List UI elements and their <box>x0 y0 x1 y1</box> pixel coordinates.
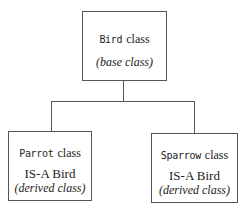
base-class-note: (base class) <box>83 55 166 70</box>
derived-class-box-parrot: Parrot class IS-A Bird (derived class) <box>8 131 92 201</box>
base-class-name: Bird <box>99 34 122 45</box>
base-class-box: Bird class (base class) <box>82 11 167 81</box>
derived-class-box-sparrow: Sparrow class IS-A Bird (derived class) <box>151 133 238 203</box>
derived-class-note: (derived class) <box>152 183 237 198</box>
connector-base-down <box>123 80 124 101</box>
derived-class-suffix: class <box>205 148 228 162</box>
derived-class-name: Parrot <box>19 148 53 159</box>
derived-class-title: Sparrow class <box>152 145 237 163</box>
derived-class-name: Sparrow <box>161 150 201 161</box>
connector-left-down <box>51 101 52 132</box>
base-class-suffix: class <box>126 32 149 46</box>
derived-class-relation: IS-A Bird <box>9 166 91 182</box>
derived-class-note: (derived class) <box>9 181 91 196</box>
base-class-title: Bird class <box>83 29 166 47</box>
derived-class-relation: IS-A Bird <box>152 168 237 184</box>
derived-class-suffix: class <box>58 146 81 160</box>
derived-class-title: Parrot class <box>9 143 91 161</box>
connector-right-down <box>194 101 195 134</box>
connector-horizontal <box>51 101 195 102</box>
